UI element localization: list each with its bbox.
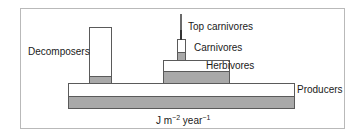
carnivores-bar-lower [177,52,186,61]
top-carnivores-label: Top carnivores [188,21,253,33]
herbivores-label: Herbivores [206,60,254,72]
unit-label: J m−2 year−1 [156,112,210,127]
producers-bar-upper [68,83,295,97]
herbivores-bar-lower [163,71,230,84]
carnivores-label: Carnivores [194,42,242,54]
decomposers-bar-upper [89,27,112,77]
top-carnivores-bar-lower [180,30,182,40]
producers-label: Producers [297,84,343,96]
decomposers-bar-lower [89,76,112,84]
unit-exp2: −1 [202,114,210,121]
producers-bar-lower [68,96,295,109]
unit-exp1: −2 [172,114,180,121]
unit-middle: year [180,115,202,126]
carnivores-bar-upper [177,39,186,53]
unit-base: J m [156,115,172,126]
decomposers-label: Decomposers [28,46,90,58]
